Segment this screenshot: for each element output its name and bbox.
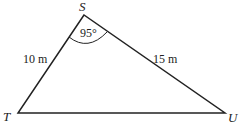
side-label-st: 10 m bbox=[23, 52, 48, 66]
triangle-diagram: S T U 10 m 15 m 95° bbox=[0, 0, 241, 128]
vertex-label-t: T bbox=[3, 109, 11, 124]
side-label-su: 15 m bbox=[153, 52, 178, 66]
triangle-stu bbox=[18, 15, 225, 113]
vertex-label-s: S bbox=[79, 0, 86, 14]
angle-label-s: 95° bbox=[80, 26, 97, 40]
vertex-label-u: U bbox=[228, 110, 239, 125]
